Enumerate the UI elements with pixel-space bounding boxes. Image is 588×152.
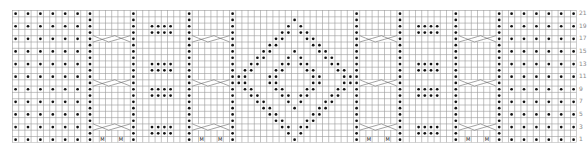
purl-dot-icon — [157, 132, 160, 135]
purl-dot-icon — [231, 69, 234, 72]
purl-dot-icon — [188, 50, 191, 53]
purl-dot-icon — [560, 113, 563, 116]
purl-dot-icon — [510, 138, 513, 141]
purl-dot-icon — [64, 88, 67, 91]
purl-dot-icon — [157, 69, 160, 72]
purl-dot-icon — [430, 63, 433, 66]
purl-dot-icon — [523, 138, 526, 141]
purl-dot-icon — [169, 94, 172, 97]
purl-dot-icon — [275, 119, 278, 122]
purl-dot-icon — [498, 56, 501, 59]
purl-dot-icon — [423, 132, 426, 135]
purl-dot-icon — [231, 101, 234, 104]
purl-dot-icon — [306, 69, 309, 72]
purl-dot-icon — [498, 138, 501, 141]
purl-dot-icon — [275, 38, 278, 41]
purl-dot-icon — [299, 132, 302, 135]
purl-dot-icon — [417, 88, 420, 91]
purl-dot-icon — [39, 25, 42, 28]
purl-dot-icon — [337, 88, 340, 91]
purl-dot-icon — [132, 50, 135, 53]
purl-dot-icon — [498, 126, 501, 129]
purl-dot-icon — [268, 113, 271, 116]
purl-dot-icon — [89, 56, 92, 59]
purl-dot-icon — [312, 38, 315, 41]
purl-dot-icon — [39, 75, 42, 78]
purl-dot-icon — [132, 44, 135, 47]
purl-dot-icon — [39, 113, 42, 116]
purl-dot-icon — [27, 138, 30, 141]
make-one-icon: M — [485, 136, 489, 142]
purl-dot-icon — [547, 12, 550, 15]
purl-dot-icon — [262, 56, 265, 59]
purl-dot-icon — [330, 94, 333, 97]
purl-dot-icon — [498, 101, 501, 104]
purl-dot-icon — [89, 94, 92, 97]
purl-dot-icon — [89, 132, 92, 135]
purl-dot-icon — [399, 69, 402, 72]
purl-dot-icon — [498, 132, 501, 135]
purl-dot-icon — [268, 75, 271, 78]
purl-dot-icon — [454, 113, 457, 116]
purl-dot-icon — [560, 138, 563, 141]
purl-dot-icon — [318, 113, 321, 116]
purl-dot-icon — [498, 25, 501, 28]
purl-dot-icon — [27, 50, 30, 53]
purl-dot-icon — [132, 82, 135, 85]
purl-dot-icon — [14, 138, 17, 141]
purl-dot-icon — [89, 31, 92, 34]
purl-dot-icon — [535, 113, 538, 116]
purl-dot-icon — [64, 63, 67, 66]
purl-dot-icon — [399, 63, 402, 66]
purl-dot-icon — [454, 94, 457, 97]
purl-dot-icon — [281, 94, 284, 97]
purl-dot-icon — [423, 25, 426, 28]
purl-dot-icon — [417, 94, 420, 97]
purl-dot-icon — [132, 113, 135, 116]
purl-dot-icon — [560, 63, 563, 66]
purl-dot-icon — [27, 25, 30, 28]
purl-dot-icon — [454, 44, 457, 47]
purl-dot-icon — [299, 31, 302, 34]
purl-dot-icon — [572, 138, 575, 141]
purl-dot-icon — [318, 107, 321, 110]
purl-dot-icon — [312, 113, 315, 116]
purl-dot-icon — [572, 75, 575, 78]
purl-dot-icon — [355, 132, 358, 135]
purl-dot-icon — [399, 107, 402, 110]
purl-dot-icon — [498, 107, 501, 110]
purl-dot-icon — [64, 126, 67, 129]
purl-dot-icon — [188, 94, 191, 97]
purl-dot-icon — [39, 50, 42, 53]
purl-dot-icon — [64, 113, 67, 116]
purl-dot-icon — [299, 101, 302, 104]
purl-dot-icon — [498, 88, 501, 91]
purl-dot-icon — [151, 132, 154, 135]
purl-dot-icon — [188, 132, 191, 135]
purl-dot-icon — [163, 25, 166, 28]
purl-dot-icon — [312, 44, 315, 47]
purl-dot-icon — [169, 31, 172, 34]
purl-dot-icon — [231, 132, 234, 135]
purl-dot-icon — [560, 50, 563, 53]
purl-dot-icon — [163, 88, 166, 91]
purl-dot-icon — [14, 25, 17, 28]
purl-dot-icon — [281, 88, 284, 91]
purl-dot-icon — [281, 38, 284, 41]
purl-dot-icon — [39, 63, 42, 66]
purl-dot-icon — [417, 31, 420, 34]
purl-dot-icon — [436, 132, 439, 135]
purl-dot-icon — [337, 63, 340, 66]
purl-dot-icon — [560, 12, 563, 15]
purl-dot-icon — [560, 101, 563, 104]
purl-dot-icon — [523, 101, 526, 104]
purl-dot-icon — [523, 75, 526, 78]
purl-dot-icon — [132, 38, 135, 41]
purl-dot-icon — [560, 38, 563, 41]
purl-dot-icon — [132, 101, 135, 104]
purl-dot-icon — [188, 69, 191, 72]
purl-dot-icon — [498, 44, 501, 47]
purl-dot-icon — [510, 88, 513, 91]
purl-dot-icon — [355, 44, 358, 47]
purl-dot-icon — [132, 94, 135, 97]
